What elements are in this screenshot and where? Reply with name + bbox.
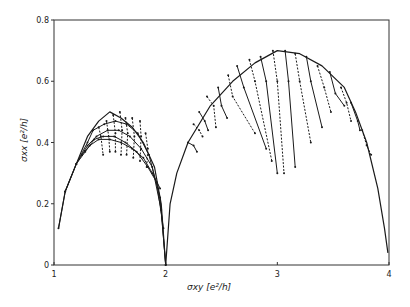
transition-trace — [237, 66, 266, 149]
transition-trace — [306, 57, 322, 127]
y-tick-label: 0.4 — [36, 139, 49, 148]
data-point — [114, 151, 116, 153]
data-point — [140, 135, 142, 137]
data-point — [121, 129, 123, 131]
data-point — [102, 135, 104, 137]
data-point — [232, 96, 234, 98]
data-point — [340, 86, 342, 88]
data-point — [147, 148, 149, 150]
data-point — [139, 120, 141, 122]
data-point — [217, 86, 219, 88]
data-point — [165, 264, 167, 266]
x-axis-label: σxy [e²/h] — [187, 282, 232, 292]
data-point — [162, 227, 164, 229]
data-point — [139, 160, 141, 162]
data-point — [370, 154, 372, 156]
data-point — [260, 56, 262, 58]
data-point — [288, 80, 290, 82]
data-point — [64, 191, 66, 193]
data-point — [133, 135, 135, 137]
data-point — [321, 126, 323, 128]
data-point — [75, 163, 77, 165]
data-point — [103, 123, 105, 125]
data-point — [159, 187, 161, 189]
data-point — [236, 65, 238, 67]
data-point — [145, 132, 147, 134]
data-point — [366, 145, 368, 147]
data-point — [248, 59, 250, 61]
data-point — [284, 50, 286, 52]
data-point — [105, 120, 107, 122]
transition-trace — [351, 103, 360, 131]
data-point — [57, 227, 59, 229]
data-point — [294, 53, 296, 55]
data-point — [124, 117, 126, 119]
data-point — [132, 157, 134, 159]
data-point — [129, 135, 131, 137]
data-point — [108, 135, 110, 137]
transition-trace — [99, 127, 103, 155]
data-point — [102, 154, 104, 156]
data-point — [109, 151, 111, 153]
data-point — [346, 102, 348, 104]
data-point — [265, 148, 267, 150]
data-point — [271, 160, 273, 162]
data-point — [87, 145, 89, 147]
data-point — [265, 80, 267, 82]
transition-trace — [188, 143, 197, 152]
data-point — [221, 105, 223, 107]
data-point — [317, 65, 319, 67]
data-point — [206, 96, 208, 98]
data-point — [151, 166, 153, 168]
data-point — [323, 86, 325, 88]
data-point — [193, 123, 195, 125]
transition-trace — [249, 60, 271, 161]
data-point — [276, 172, 278, 174]
transition-trace — [285, 51, 295, 167]
data-point — [118, 129, 120, 131]
data-point — [187, 142, 189, 144]
data-point — [361, 129, 363, 131]
x-tick-label: 4 — [386, 270, 391, 279]
data-point — [119, 111, 121, 113]
data-point — [227, 74, 229, 76]
y-tick-label: 0.8 — [36, 16, 49, 25]
data-point — [114, 132, 116, 134]
y-axis-ticks: 00.20.40.60.8 — [36, 16, 54, 270]
data-point — [112, 114, 114, 116]
transition-trace — [330, 72, 345, 106]
data-point — [89, 145, 91, 147]
transition-trace — [132, 118, 134, 158]
transition-trace — [228, 75, 255, 133]
data-point — [334, 93, 336, 95]
data-point — [127, 132, 129, 134]
x-tick-label: 1 — [51, 270, 56, 279]
data-point — [305, 56, 307, 58]
data-point — [359, 129, 361, 131]
data-point — [310, 142, 312, 144]
data-point — [142, 157, 144, 159]
plot-curves — [57, 50, 387, 266]
x-tick-label: 3 — [275, 270, 280, 279]
envelope-curve — [59, 112, 166, 265]
plot-frame — [54, 20, 389, 265]
data-point — [146, 166, 148, 168]
data-point — [100, 135, 102, 137]
svg-text:σxx [e²/h]: σxx [e²/h] — [19, 117, 29, 162]
data-point — [254, 132, 256, 134]
data-point — [87, 142, 89, 144]
data-point — [196, 151, 198, 153]
data-point — [350, 102, 352, 104]
y-tick-label: 0 — [44, 261, 49, 270]
data-point — [329, 71, 331, 73]
transition-trace — [273, 51, 284, 174]
y-tick-label: 0.2 — [36, 200, 49, 209]
data-point — [93, 138, 95, 140]
data-point — [276, 80, 278, 82]
data-point — [343, 105, 345, 107]
y-tick-label: 0.6 — [36, 77, 49, 86]
data-point — [283, 172, 285, 174]
data-point — [254, 80, 256, 82]
data-point — [215, 126, 217, 128]
data-point — [193, 145, 195, 147]
